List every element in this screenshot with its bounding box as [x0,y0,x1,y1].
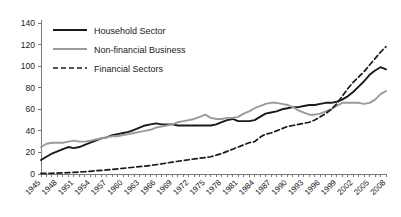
x-tick-label: 2008 [368,178,387,197]
y-axis: 020406080100120140 [21,18,41,179]
legend-label: Non-financial Business [94,45,186,55]
x-tick-label: 2005 [352,178,371,197]
x-tick-label: 1996 [303,178,322,197]
data-series-group [41,47,386,174]
y-tick-label: 140 [21,18,35,28]
x-tick-label: 2002 [336,178,355,197]
y-tick-label: 60 [26,104,36,114]
x-tick-label: 1999 [319,178,338,197]
x-tick-label: 1972 [171,178,190,197]
y-tick-label: 0 [30,169,35,179]
x-tick-label: 1990 [270,178,289,197]
y-tick-label: 40 [26,126,36,136]
x-axis: 1945194819511954195719601963196619691972… [23,174,387,197]
legend-label: Financial Sectors [94,64,164,74]
x-tick-label: 1978 [204,178,223,197]
series-line-financial-sectors [41,47,386,174]
x-tick-label: 1981 [221,178,240,197]
x-tick-label: 1966 [138,178,157,197]
x-tick-label: 1957 [89,178,108,197]
y-tick-label: 100 [21,61,35,71]
line-chart: 020406080100120140 194519481951195419571… [0,0,401,217]
x-tick-label: 1948 [40,178,59,197]
chart-container: 020406080100120140 194519481951195419571… [0,0,401,217]
x-tick-label: 1969 [155,178,174,197]
x-tick-label: 1945 [23,178,42,197]
x-tick-label: 1993 [286,178,305,197]
series-line-household-sector [41,67,386,160]
y-tick-label: 20 [26,147,36,157]
x-tick-label: 1987 [253,178,272,197]
x-tick-label: 1960 [106,178,125,197]
legend-label: Household Sector [94,26,166,36]
x-tick-label: 1951 [56,178,75,197]
x-tick-label: 1954 [73,178,92,197]
x-tick-label: 1984 [237,178,256,197]
x-tick-label: 1963 [122,178,141,197]
series-line-non-financial-business [41,91,386,147]
y-tick-label: 120 [21,40,35,50]
y-tick-label: 80 [26,83,36,93]
chart-legend: Household SectorNon-financial BusinessFi… [53,26,186,74]
x-tick-label: 1975 [188,178,207,197]
